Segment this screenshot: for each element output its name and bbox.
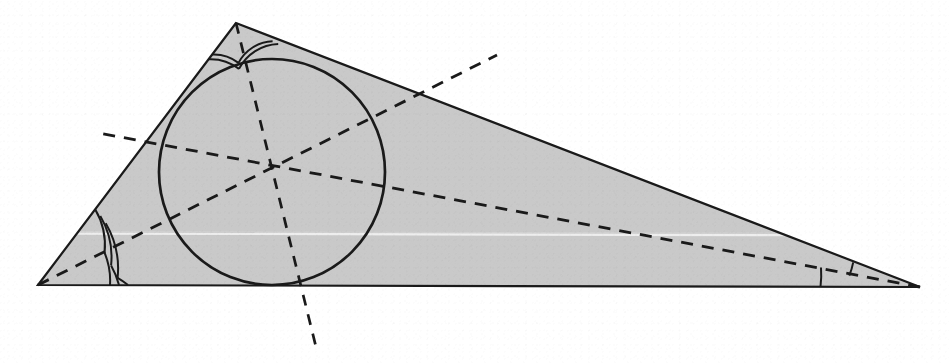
diagram-canvas <box>0 0 949 364</box>
geometry-figure <box>0 0 949 364</box>
paper-grain <box>0 0 949 364</box>
angle-mark-right-lower <box>821 268 822 288</box>
scan-artifact-band <box>38 232 949 236</box>
